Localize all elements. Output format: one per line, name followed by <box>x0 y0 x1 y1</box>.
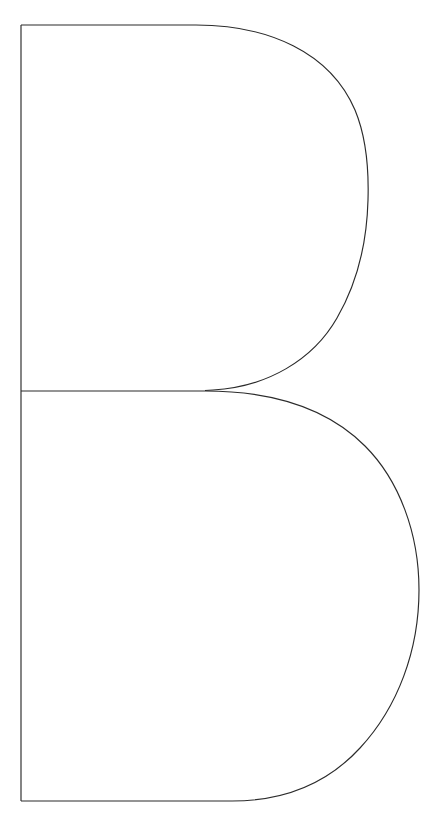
lower-bowl-path <box>21 391 419 801</box>
upper-bowl-path <box>21 25 368 391</box>
glyph-canvas: B Outline drawing of the uppercase lette… <box>0 0 441 828</box>
letter-b-outline-svg: Outline drawing of the uppercase letter … <box>0 0 441 828</box>
